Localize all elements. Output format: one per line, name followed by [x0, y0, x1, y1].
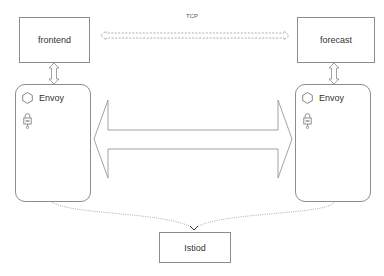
- control-plane-links: [52, 202, 334, 228]
- envoy-label-right: Envoy: [319, 93, 344, 103]
- diagram-canvas: TCP frontend forecast Istiod Envoy: [0, 0, 384, 276]
- envoy-header-left: Envoy: [22, 92, 64, 104]
- hexagon-icon: [302, 92, 313, 104]
- istiod-label: Istiod: [184, 243, 206, 253]
- tcp-label: TCP: [186, 13, 198, 19]
- frontend-label: frontend: [38, 35, 71, 45]
- control-link-right: [196, 202, 334, 228]
- frontend-service-box: frontend: [19, 17, 90, 63]
- istiod-box: Istiod: [159, 232, 231, 263]
- forecast-service-box: forecast: [297, 17, 375, 63]
- mesh-double-arrow: [94, 100, 292, 178]
- envoy-header-right: Envoy: [302, 92, 344, 104]
- forecast-label: forecast: [320, 35, 352, 45]
- hexagon-icon: [22, 92, 33, 104]
- envoy-sidecar-left: Envoy: [15, 84, 91, 202]
- istiod-arrowhead: [190, 226, 198, 230]
- envoy-label-left: Envoy: [39, 93, 64, 103]
- forecast-envoy-arrow: [329, 63, 339, 84]
- lock-icon: [23, 113, 32, 129]
- tcp-double-arrow: [101, 31, 289, 40]
- control-link-left: [52, 202, 192, 228]
- envoy-sidecar-right: Envoy: [295, 84, 371, 202]
- lock-icon: [303, 113, 312, 129]
- frontend-envoy-arrow: [49, 63, 59, 84]
